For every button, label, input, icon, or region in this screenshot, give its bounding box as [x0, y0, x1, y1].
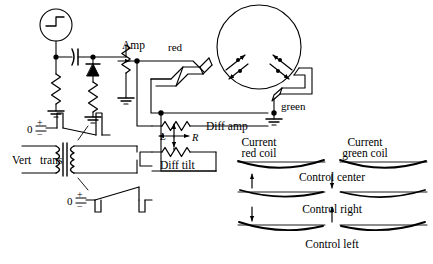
heading-red-line2: red coil — [242, 147, 277, 159]
green-wire-label: green — [281, 100, 306, 112]
curve-row-2-green — [340, 190, 427, 197]
minus-label-bottom: − — [77, 201, 83, 212]
heading-green-line2: green coil — [342, 147, 388, 160]
curve-row-3-green — [340, 222, 427, 230]
vert-trans-label-1: Vert — [12, 154, 32, 166]
ground-symbol — [48, 111, 64, 117]
schematic-svg: Amp red green Diff amp Diff tilt Vert tr… — [0, 0, 433, 264]
l-label: L — [159, 131, 166, 142]
curve-row-1-red — [238, 160, 325, 168]
potentiometer-amp[interactable] — [118, 45, 130, 98]
zero-label-bottom: 0 — [67, 195, 73, 207]
row-caption-right: Control right — [302, 203, 363, 216]
plus-label-bottom: + — [77, 189, 83, 200]
diff-amp-label: Diff amp — [206, 120, 248, 133]
zero-label-top: 0 — [27, 123, 33, 135]
coil-red-bracket — [151, 58, 212, 86]
curve-row-1-green — [340, 160, 427, 168]
minus-label-top: − — [37, 129, 43, 140]
resistor-left — [52, 59, 61, 111]
curve-row-2-red — [238, 190, 325, 197]
waveform-bottom — [76, 187, 152, 212]
row-caption-left: Control left — [305, 238, 359, 250]
r-label: R — [191, 132, 199, 143]
amp-label: Amp — [122, 39, 145, 52]
pulse-source-symbol — [40, 9, 72, 41]
resistor-middle — [89, 82, 98, 117]
crt-circle — [217, 5, 301, 89]
capacitor-symbol — [72, 49, 78, 65]
plus-label-top: + — [37, 117, 43, 128]
red-wire-label: red — [168, 41, 183, 53]
ground-symbol — [85, 117, 101, 123]
diode-symbol — [86, 59, 100, 82]
curve-row-3-red — [238, 222, 325, 230]
magnetic-field-arrows — [226, 55, 292, 79]
vert-trans-label-2: trans — [40, 154, 63, 166]
wire — [151, 79, 268, 113]
ground-symbol — [266, 113, 282, 125]
row-caption-center: Control center — [299, 171, 365, 183]
diff-tilt-label: Diff tilt — [160, 159, 195, 171]
diagram-canvas: Amp red green Diff amp Diff tilt Vert tr… — [0, 0, 433, 264]
ground-symbol — [118, 98, 134, 104]
wire — [137, 61, 152, 126]
